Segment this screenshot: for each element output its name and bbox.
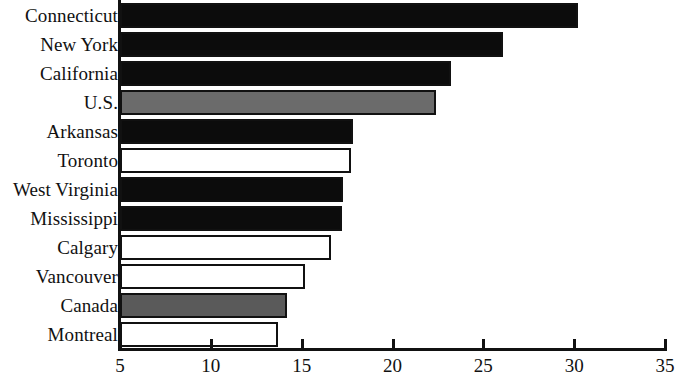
- bar-category-label: New York: [40, 30, 118, 59]
- axis-tick-label: 20: [383, 355, 402, 377]
- bar-row: Vancouver: [0, 262, 670, 291]
- axis-tick: [119, 339, 122, 349]
- bar-category-label: Toronto: [57, 146, 118, 175]
- bar: [120, 32, 503, 57]
- bar: [120, 3, 578, 28]
- bar-row: Calgary: [0, 233, 670, 262]
- bar: [120, 90, 436, 115]
- bar-category-label: Canada: [60, 291, 118, 320]
- axis-tick-label: 5: [115, 355, 125, 377]
- bar-category-label: U.S.: [84, 88, 118, 117]
- bar-row: New York: [0, 30, 670, 59]
- bar-row: Toronto: [0, 146, 670, 175]
- bar: [120, 119, 353, 144]
- bar-category-label: Calgary: [57, 233, 118, 262]
- axis-tick: [664, 339, 667, 349]
- bar-category-label: Arkansas: [46, 117, 118, 146]
- category-axis-line: [118, 0, 121, 351]
- bar-row: Connecticut: [0, 1, 670, 30]
- axis-tick-label: 25: [474, 355, 493, 377]
- bar-row: Montreal: [0, 320, 670, 349]
- axis-tick: [573, 339, 576, 349]
- axis-tick-label: 30: [565, 355, 584, 377]
- plot-area: ConnecticutNew YorkCaliforniaU.S.Arkansa…: [0, 0, 670, 352]
- axis-tick: [301, 339, 304, 349]
- bar: [120, 148, 351, 173]
- bar-category-label: California: [40, 59, 118, 88]
- axis-tick-label: 35: [656, 355, 675, 377]
- bar-row: Arkansas: [0, 117, 670, 146]
- bar: [120, 235, 331, 260]
- axis-tick: [392, 339, 395, 349]
- bar-category-label: Connecticut: [25, 1, 118, 30]
- bar-category-label: West Virginia: [13, 175, 118, 204]
- bar-row: California: [0, 59, 670, 88]
- bar-category-label: Mississippi: [30, 204, 118, 233]
- axis-tick-label: 10: [201, 355, 220, 377]
- axis-tick-label: 15: [292, 355, 311, 377]
- bar-row: West Virginia: [0, 175, 670, 204]
- bar-category-label: Montreal: [48, 320, 118, 349]
- bar: [120, 206, 342, 231]
- bar-row: U.S.: [0, 88, 670, 117]
- axis-tick: [482, 339, 485, 349]
- bar-row: Mississippi: [0, 204, 670, 233]
- bar: [120, 177, 343, 202]
- bar: [120, 264, 305, 289]
- bar: [120, 61, 451, 86]
- bar-row: Canada: [0, 291, 670, 320]
- bar-category-label: Vancouver: [36, 262, 118, 291]
- axis-tick: [210, 339, 213, 349]
- bar: [120, 322, 278, 347]
- bar: [120, 293, 287, 318]
